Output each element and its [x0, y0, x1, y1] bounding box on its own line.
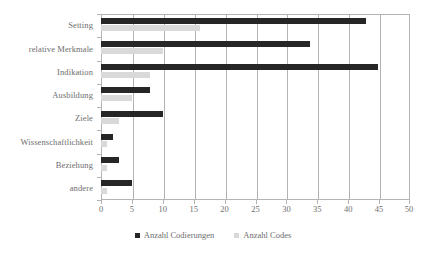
bar-codierungen-indikation — [101, 64, 378, 70]
bar-codierungen-ausbildung — [101, 87, 150, 93]
x-tick-label-5: 25 — [251, 205, 260, 214]
x-axis: 0 5 10 15 20 25 30 35 40 45 50 — [101, 200, 410, 218]
plot-wrapper: Setting relative Merkmale Indikation Aus… — [0, 0, 426, 215]
x-tick-label-6: 30 — [282, 205, 291, 214]
x-tick-label-10: 50 — [405, 205, 414, 214]
bar-codes-relative-merkmale — [101, 48, 163, 54]
y-axis-label-7: andere — [0, 177, 97, 200]
bar-group-ausbildung — [101, 84, 410, 107]
y-axis-label-1: relative Merkmale — [0, 37, 97, 60]
y-axis-label-6: Beziehung — [0, 154, 97, 177]
bar-codierungen-relative-merkmale — [101, 41, 310, 47]
bar-codierungen-ziele — [101, 111, 163, 117]
legend-swatch-icon-codierungen — [135, 233, 140, 238]
y-axis-label-5: Wissenschaftlichkeit — [0, 130, 97, 153]
x-tick-label-8: 40 — [344, 205, 353, 214]
bar-group-wissenschaftlichkeit — [101, 130, 410, 153]
bar-codierungen-setting — [101, 18, 366, 24]
bar-codes-wissenschaftlichkeit — [101, 141, 107, 147]
x-tick-label-0: 0 — [99, 205, 103, 214]
x-tick-label-9: 45 — [375, 205, 384, 214]
x-tick-label-7: 35 — [313, 205, 322, 214]
bar-codes-setting — [101, 25, 200, 31]
y-axis-label-4: Ziele — [0, 107, 97, 130]
bar-codes-beziehung — [101, 165, 107, 171]
chart-legend: Anzahl Codierungen Anzahl Codes — [0, 230, 426, 240]
legend-label-codierungen: Anzahl Codierungen — [144, 230, 215, 240]
legend-item-codes: Anzahl Codes — [234, 230, 291, 240]
x-tick-label-3: 15 — [189, 205, 198, 214]
bar-codes-andere — [101, 188, 107, 194]
bar-codes-ziele — [101, 118, 119, 124]
bar-codierungen-andere — [101, 180, 132, 186]
bar-group-ziele — [101, 107, 410, 130]
bar-codierungen-beziehung — [101, 157, 119, 163]
legend-label-codes: Anzahl Codes — [243, 230, 291, 240]
bar-group-relative-merkmale — [101, 37, 410, 60]
x-tick-label-1: 5 — [130, 205, 134, 214]
bar-codes-ausbildung — [101, 95, 132, 101]
bar-group-andere — [101, 177, 410, 200]
y-axis-label-3: Ausbildung — [0, 84, 97, 107]
y-axis-category-labels: Setting relative Merkmale Indikation Aus… — [0, 14, 97, 200]
bar-rows — [101, 14, 410, 200]
bar-codierungen-wissenschaftlichkeit — [101, 134, 113, 140]
x-tick-label-2: 10 — [159, 205, 168, 214]
bar-group-indikation — [101, 61, 410, 84]
bar-group-beziehung — [101, 154, 410, 177]
bar-chart: Setting relative Merkmale Indikation Aus… — [0, 0, 426, 257]
x-tick-label-4: 20 — [220, 205, 229, 214]
legend-swatch-icon-codes — [234, 233, 239, 238]
bar-group-setting — [101, 14, 410, 37]
legend-item-codierungen: Anzahl Codierungen — [135, 230, 215, 240]
bar-codes-indikation — [101, 72, 150, 78]
y-axis-label-2: Indikation — [0, 61, 97, 84]
y-axis-label-0: Setting — [0, 14, 97, 37]
